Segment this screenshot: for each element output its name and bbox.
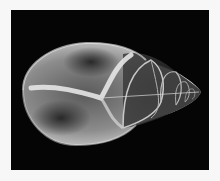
shell-xray-photo — [11, 10, 209, 170]
image-frame — [0, 0, 220, 181]
shell-illustration — [11, 10, 209, 170]
shadow-upper — [63, 47, 119, 77]
